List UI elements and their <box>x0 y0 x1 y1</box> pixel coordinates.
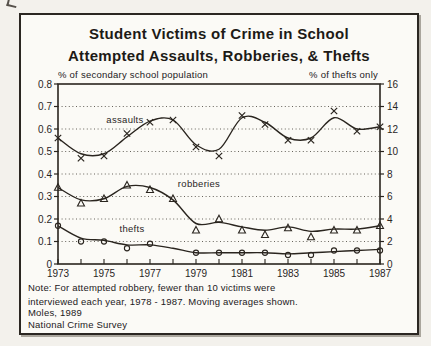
source-line1: Moles, 1989 <box>28 307 127 319</box>
left-axis-tick-label: 0.4 <box>38 169 52 180</box>
marker-circle-thefts <box>78 239 83 244</box>
x-axis-tick-label: 1983 <box>277 268 300 279</box>
x-axis-tick-label: 1985 <box>323 268 346 279</box>
figure-frame: Student Victims of Crime in School Attem… <box>19 13 419 335</box>
marker-x-assaults <box>170 117 176 123</box>
scanned-report-page: { "figure": { "title_line1": "Student Vi… <box>0 0 431 346</box>
x-axis-tick-label: 1981 <box>231 268 254 279</box>
marker-x-assaults <box>216 153 222 159</box>
marker-x-assaults <box>124 130 130 136</box>
series-curve-robberies <box>58 185 380 231</box>
left-axis-tick-label: 0.8 <box>38 79 52 90</box>
left-axis-tick-label: 0.7 <box>38 101 52 112</box>
footnote-line1: Note: For attempted robbery, fewer than … <box>28 281 298 295</box>
right-axis-tick-label: 6 <box>387 191 393 202</box>
source-citation: Moles, 1989 National Crime Survey <box>28 307 127 332</box>
right-axis-tick-label: 12 <box>387 124 399 135</box>
marker-x-assaults <box>331 108 337 114</box>
scan-artifact <box>6 0 17 8</box>
marker-triangle-robberies <box>193 226 200 233</box>
x-axis-tick-label: 1975 <box>93 268 116 279</box>
x-axis-tick-label: 1987 <box>369 268 392 279</box>
left-axis-tick-label: 0.3 <box>38 191 52 202</box>
x-axis-tick-label: 1979 <box>185 268 208 279</box>
marker-x-assaults <box>78 155 84 161</box>
x-axis-tick-label: 1977 <box>139 268 162 279</box>
series-label-robberies: robberies <box>178 178 220 189</box>
right-axis-tick-label: 4 <box>387 214 393 225</box>
x-axis-tick-label: 1973 <box>47 268 70 279</box>
series-label-thefts: thefts <box>119 223 144 234</box>
marker-triangle-robberies <box>262 231 269 238</box>
series-label-assaults: assaults <box>106 114 143 125</box>
right-axis-tick-label: 14 <box>387 101 399 112</box>
marker-circle-thefts <box>124 246 129 251</box>
source-line2: National Crime Survey <box>28 319 127 331</box>
left-axis-tick-label: 0.5 <box>38 146 52 157</box>
left-axis-tick-label: 0.2 <box>38 214 52 225</box>
footnote: Note: For attempted robbery, fewer than … <box>28 281 298 309</box>
right-axis-tick-label: 2 <box>387 236 393 247</box>
marker-triangle-robberies <box>216 215 223 222</box>
right-axis-tick-label: 8 <box>387 169 393 180</box>
right-axis-tick-label: 10 <box>387 146 399 157</box>
right-axis-tick-label: 16 <box>387 79 399 90</box>
marker-triangle-robberies <box>308 233 315 240</box>
left-axis-tick-label: 0.6 <box>38 124 52 135</box>
left-axis-tick-label: 0.1 <box>38 236 52 247</box>
